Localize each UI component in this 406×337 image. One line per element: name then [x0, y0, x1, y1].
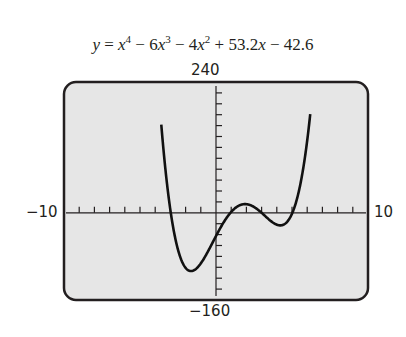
graph-window — [0, 0, 406, 337]
xmax-label: 10 — [374, 203, 393, 221]
ymax-label: 240 — [191, 61, 220, 79]
xmin-label: −10 — [26, 203, 58, 221]
ymin-label: −160 — [189, 302, 230, 320]
